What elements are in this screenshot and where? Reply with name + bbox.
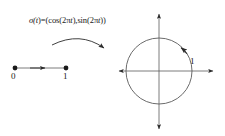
circle-radius-label: 1 — [190, 56, 195, 66]
interval-label-one: 1 — [63, 71, 68, 81]
formula-sin-part: ),sin(2π — [73, 15, 98, 25]
interval-start-dot — [13, 66, 18, 71]
unit-interval-group — [13, 66, 69, 71]
coordinate-axes-group — [119, 14, 213, 129]
parametrization-formula: σ(t)=(cos(2πt),sin(2πt)) — [29, 15, 106, 25]
formula-sigma: σ( — [29, 15, 36, 25]
formula-cos-part: )=(cos(2π — [38, 15, 70, 25]
circle-direction-arrow — [181, 48, 187, 54]
interval-label-zero: 0 — [11, 71, 16, 81]
formula-tail: )) — [100, 15, 105, 25]
interval-end-dot — [64, 66, 69, 71]
curved-map-arrow — [52, 39, 104, 48]
